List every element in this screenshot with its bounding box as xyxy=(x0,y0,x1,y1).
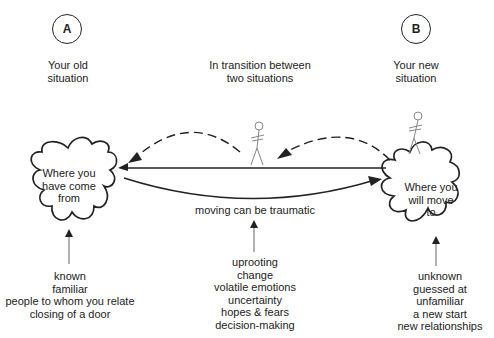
dashed-arrowhead-right-icon xyxy=(277,148,292,159)
marker-b: B xyxy=(401,14,431,44)
pointer-transition-arrowhead-icon xyxy=(250,220,258,228)
pointer-old-arrowhead-icon xyxy=(65,229,73,237)
heading-transition: In transition between two situations xyxy=(205,59,315,84)
list-transition: uprooting change volatile emotions uncer… xyxy=(195,256,315,331)
dashed-arc-right xyxy=(290,137,390,160)
right-arrowhead-icon xyxy=(368,176,382,186)
heading-new-situation: Your new situation xyxy=(386,59,446,84)
list-old: known familiar people to whom you relate… xyxy=(0,270,140,320)
list-new: unknown guessed at unfamiliar a new star… xyxy=(390,270,490,333)
dashed-arrowhead-left-icon xyxy=(128,152,142,163)
dashed-arc-left xyxy=(135,132,240,158)
heading-old-situation: Your old situation xyxy=(38,59,98,84)
center-label: moving can be traumatic xyxy=(190,204,320,217)
stick-figure-transition-icon xyxy=(251,122,264,165)
stick-figure-destination-icon xyxy=(409,112,422,154)
origin-blob-label: Where you have come from xyxy=(36,167,102,205)
pointer-new-arrowhead-icon xyxy=(432,236,440,244)
moving-curve xyxy=(124,178,375,199)
destination-blob-label: Where you will move to xyxy=(398,181,464,219)
marker-a: A xyxy=(52,14,82,44)
left-arrowhead-icon xyxy=(118,163,128,171)
